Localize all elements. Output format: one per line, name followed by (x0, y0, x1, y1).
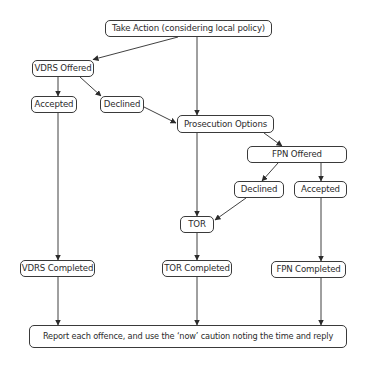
edge-fpn-offered-to-declined (262, 163, 278, 181)
node-take-action: Take Action (considering local policy) (105, 20, 272, 37)
node-tor-completed-label: TOR Completed (164, 264, 230, 273)
node-vdrs-accepted-label: Accepted (35, 100, 74, 109)
node-vdrs-declined: Declined (100, 96, 144, 113)
node-prosecution-options-label: Prosecution Options (184, 120, 267, 129)
edge-declined-to-prosecution-options (144, 107, 176, 123)
node-report: Report each offence, and use the ‘now’ c… (29, 325, 347, 348)
node-vdrs-completed: VDRS Completed (20, 260, 95, 277)
node-vdrs-offered: VDRS Offered (32, 60, 94, 77)
node-vdrs-accepted: Accepted (31, 96, 77, 113)
node-fpn-offered-label: FPN Offered (272, 150, 322, 159)
node-prosecution-options: Prosecution Options (177, 115, 274, 133)
node-tor-completed: TOR Completed (162, 260, 232, 277)
node-fpn-completed-label: FPN Completed (276, 265, 340, 274)
node-fpn-accepted-label: Accepted (301, 185, 340, 194)
node-fpn-declined: Declined (234, 181, 284, 198)
node-tor-label: TOR (188, 220, 206, 229)
node-fpn-offered: FPN Offered (247, 146, 347, 163)
edge-fpn-declined-to-tor (215, 198, 246, 220)
node-tor: TOR (180, 216, 214, 233)
node-fpn-accepted: Accepted (294, 181, 347, 198)
node-take-action-label: Take Action (considering local policy) (112, 24, 265, 33)
node-fpn-completed: FPN Completed (271, 261, 346, 278)
node-report-label: Report each offence, and use the ‘now’ c… (43, 332, 333, 340)
edge-vdrs-offered-to-declined (80, 77, 101, 96)
node-vdrs-offered-label: VDRS Offered (34, 64, 91, 73)
edge-prosecution-options-to-fpn-offered (264, 133, 282, 146)
flowchart: Take Action (considering local policy) V… (0, 0, 367, 366)
edge-take-action-to-vdrs-offered (93, 37, 178, 60)
node-fpn-declined-label: Declined (241, 185, 277, 194)
node-vdrs-completed-label: VDRS Completed (22, 264, 93, 273)
node-vdrs-declined-label: Declined (104, 100, 140, 109)
